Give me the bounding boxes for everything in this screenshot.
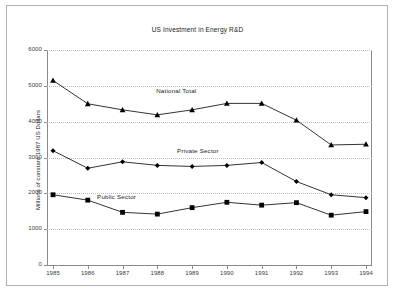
chart-screenshot: US Investment in Energy R&D Millions of … [0,0,395,293]
gridline [47,229,372,230]
gridline [47,122,372,123]
gridline [47,158,372,159]
y-tick-mark [44,50,47,51]
x-tick-mark [192,266,193,269]
x-tick-mark [123,266,124,269]
y-tick-label: 4000 [8,118,42,124]
series-label: Public Sector [97,193,136,200]
chart-title: US Investment in Energy R&D [0,26,395,33]
x-tick-mark [88,266,89,269]
y-tick-label: 3000 [8,154,42,160]
plot-area [47,50,372,265]
x-tick-mark [227,266,228,269]
y-tick-mark [44,122,47,123]
y-tick-mark [44,193,47,194]
x-tick-mark [331,266,332,269]
y-tick-mark [44,158,47,159]
x-tick-mark [53,266,54,269]
gridline [47,193,372,194]
x-tick-label: 1994 [346,270,386,276]
y-axis-title: Millions of constant 1987 US Dollars [35,70,41,250]
x-tick-mark [296,266,297,269]
y-tick-mark [44,229,47,230]
y-tick-mark [44,265,47,266]
x-tick-mark [262,266,263,269]
x-tick-mark [366,266,367,269]
series-label: Private Sector [177,147,219,154]
gridline [47,86,372,87]
x-tick-mark [157,266,158,269]
x-axis-line [47,265,372,266]
series-label: National Total [156,87,196,94]
y-tick-label: 0 [8,261,42,267]
gridline [47,50,372,51]
y-tick-label: 1000 [8,225,42,231]
y-tick-label: 5000 [8,82,42,88]
y-tick-label: 6000 [8,46,42,52]
y-tick-mark [44,86,47,87]
y-tick-label: 2000 [8,189,42,195]
